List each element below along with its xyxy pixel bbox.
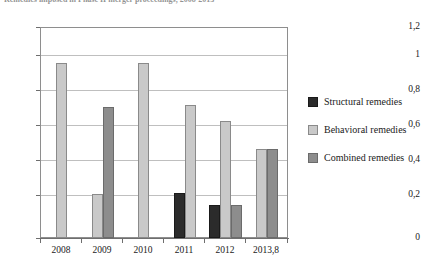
y-tick-label-1: 1 [415,50,420,60]
bar-group-2013 [246,28,287,238]
bar-2011-behavioral [185,105,196,238]
legend-label-behavioral: Behavioral remedies [324,124,406,135]
y-tick-mark-0-2 [36,195,40,196]
legend-label-structural: Structural remedies [324,96,402,107]
x-axis-line [40,238,289,239]
y-tick-mark-0-8 [36,90,40,91]
legend-swatch-combined-icon [308,153,318,163]
y-tick-mark-1-2 [36,27,40,28]
x-tick-mark-4 [204,239,205,243]
bar-group-2009 [82,28,123,238]
bar-2012-structural [209,205,220,238]
x-tick-label-2008: 2008 [52,245,71,256]
x-tick-label-2013: 2013,8 [253,245,279,256]
bar-2012-behavioral [220,121,231,238]
figure-caption: Remedies imposed in Phase II merger proc… [4,0,304,8]
x-tick-mark-0 [40,239,41,243]
bar-group-2011 [164,28,205,238]
x-tick-mark-2 [122,239,123,243]
chart-legend: Structural remedies Behavioral remedies … [308,96,420,180]
x-tick-label-2011: 2011 [175,245,194,256]
figure-caption-text: Remedies imposed in Phase II merger proc… [4,0,304,4]
y-tick-label-0-2: 0,2 [408,190,420,200]
bar-2011-structural [174,193,185,239]
y-tick-label-1-2: 1,2 [408,22,420,32]
legend-item-behavioral: Behavioral remedies [308,124,420,135]
bar-2010-behavioral [138,63,149,238]
bars-layer [41,28,287,238]
x-tick-label-2012: 2012 [216,245,235,256]
x-tick-label-2010: 2010 [134,245,153,256]
legend-swatch-structural-icon [308,97,318,107]
legend-item-combined: Combined remedies [308,152,420,163]
bar-2013-combined [267,149,278,238]
bar-2009-behavioral [92,194,103,238]
legend-swatch-behavioral-icon [308,125,318,135]
bar-2012-combined [231,205,242,238]
legend-label-combined: Combined remedies [324,152,404,163]
bar-group-2012 [205,28,246,238]
y-tick-mark-0-4 [36,160,40,161]
x-tick-mark-3 [163,239,164,243]
chart-figure: Remedies imposed in Phase II merger proc… [0,0,424,270]
x-tick-label-2009: 2009 [93,245,112,256]
x-tick-mark-6 [287,239,288,243]
y-tick-mark-0-6 [36,125,40,126]
x-tick-mark-5 [245,239,246,243]
x-tick-mark-1 [81,239,82,243]
bar-2008-behavioral [56,63,67,238]
bar-2013-behavioral [256,149,267,238]
y-tick-label-0-8: 0,8 [408,85,420,95]
bar-group-2008 [41,28,82,238]
y-tick-label-0: 0 [415,233,420,243]
y-tick-mark-1 [36,55,40,56]
legend-item-structural: Structural remedies [308,96,420,107]
bar-2009-combined [103,107,114,238]
bar-group-2010 [123,28,164,238]
